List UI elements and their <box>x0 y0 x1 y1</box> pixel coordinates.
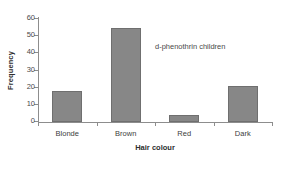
x-tick-mark <box>155 122 156 126</box>
x-axis-title: Hair colour <box>38 143 272 152</box>
chart-annotation-label: d-phenothrin children <box>155 42 225 52</box>
x-tick-mark <box>97 122 98 126</box>
x-category-label-brown: Brown <box>97 129 156 139</box>
x-category-label-red: Red <box>155 129 214 139</box>
y-tick-label: 20 <box>27 82 35 91</box>
y-axis-title: Frequency <box>4 19 18 122</box>
bar-chart-figure: Frequency 0 10 20 30 40 50 <box>0 0 290 171</box>
x-category-label-dark: Dark <box>214 129 273 139</box>
y-tick-label: 60 <box>27 13 35 22</box>
bar-red <box>169 115 199 122</box>
plot-area: 0 10 20 30 40 50 60 <box>38 19 272 122</box>
y-tick-label: 10 <box>27 99 35 108</box>
x-tick-mark <box>214 122 215 126</box>
y-tick-label: 50 <box>27 30 35 39</box>
x-tick-mark <box>38 122 39 126</box>
x-category-label-blonde: Blonde <box>38 129 97 139</box>
y-tick-label: 0 <box>31 116 35 125</box>
x-tick-mark <box>272 122 273 126</box>
y-tick-label: 40 <box>27 47 35 56</box>
bar-blonde <box>52 91 82 122</box>
bar-brown <box>111 28 141 122</box>
y-tick-label: 30 <box>27 65 35 74</box>
bar-dark <box>228 86 258 122</box>
